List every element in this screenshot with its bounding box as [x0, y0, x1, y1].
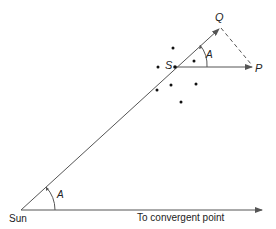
label-angle-sun: A — [56, 189, 64, 200]
label-sun: Sun — [9, 213, 27, 224]
q-to-p-dashed-line — [221, 28, 251, 64]
label-q: Q — [215, 11, 224, 23]
label-p: P — [255, 62, 263, 74]
label-angle-star: A — [205, 49, 213, 60]
sun-to-star-line — [21, 29, 219, 210]
label-s: S — [165, 59, 173, 71]
angle-arc-sun — [46, 187, 55, 210]
convergent-point-diagram: Q P S A A Sun To convergent point — [0, 0, 276, 229]
label-baseline: To convergent point — [137, 212, 225, 223]
